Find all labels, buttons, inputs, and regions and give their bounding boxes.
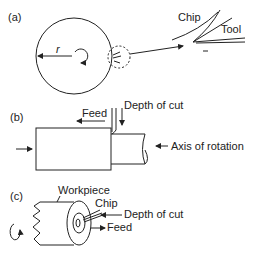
panel-a-label: (a) [8, 12, 21, 23]
cylinder-face [67, 201, 91, 245]
axis-label: Axis of rotation [171, 141, 244, 152]
tool-flank [193, 38, 245, 42]
chip-lines [83, 210, 103, 222]
face-ring [73, 213, 85, 233]
tool-small [113, 52, 121, 63]
rotation-icon [10, 224, 20, 240]
panel-c-label: (c) [10, 191, 23, 202]
magnify-arrow [130, 46, 183, 54]
panel-a-drawing [36, 10, 245, 94]
panel-b-label: (b) [10, 112, 23, 123]
chip-label-a: Chip [178, 12, 201, 23]
face-center [76, 219, 80, 227]
workpiece-leader [57, 196, 60, 202]
workpiece-label: Workpiece [58, 185, 110, 196]
tool-label: Tool [221, 24, 241, 35]
workpiece-block [36, 128, 111, 170]
tool-line-2 [112, 108, 116, 134]
chip-label-c: Chip [95, 198, 118, 209]
depth-label-b: Depth of cut [124, 100, 183, 111]
depth-label-c: Depth of cut [124, 209, 183, 220]
tool-flank-2 [196, 42, 245, 43]
radius-label: r [56, 44, 60, 55]
shaft-break [143, 134, 148, 164]
feed-label-b: Feed [82, 108, 107, 119]
broken-end [33, 202, 40, 245]
rotation-arrow-icon [75, 49, 88, 63]
cylinder-body [40, 202, 74, 245]
feed-label-c: Feed [107, 222, 132, 233]
shaft [111, 134, 145, 164]
